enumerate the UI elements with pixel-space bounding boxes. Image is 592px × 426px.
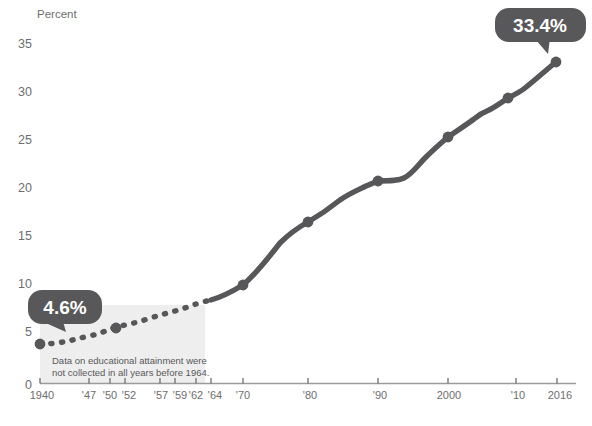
chart-container: Percent 35 30 25 20 15 10 5 0 bbox=[0, 0, 592, 426]
x-tick-label-2010: '10 bbox=[511, 389, 525, 401]
x-tick-label-1970: '70 bbox=[236, 389, 250, 401]
shaded-region-note-line-2: not collected in all years before 1964. bbox=[52, 367, 209, 378]
x-tick-label-1962: '62 bbox=[189, 389, 203, 401]
x-tick-label-1950: '50 bbox=[103, 389, 117, 401]
callout-end-value: 33.4% bbox=[495, 8, 586, 54]
x-tick-label-1940: 1940 bbox=[30, 389, 54, 401]
data-point-2016 bbox=[551, 57, 562, 68]
x-tick-label-1957: '57 bbox=[154, 389, 168, 401]
y-tick-5: 5 bbox=[25, 325, 32, 339]
x-tick-label-2000: 2000 bbox=[437, 389, 461, 401]
y-axis-title: Percent bbox=[37, 8, 77, 20]
shaded-region-note-line-1: Data on educational attainment were bbox=[52, 355, 207, 366]
y-axis-tick-labels: 35 30 25 20 15 10 5 0 bbox=[18, 37, 32, 392]
callout-end-label: 33.4% bbox=[513, 15, 567, 36]
x-tick-label-1947: '47 bbox=[82, 389, 96, 401]
y-tick-25: 25 bbox=[18, 133, 32, 147]
data-point-1952 bbox=[111, 323, 122, 334]
x-tick-label-1959: '59 bbox=[173, 389, 187, 401]
x-tick-label-1980: '80 bbox=[303, 389, 317, 401]
x-tick-label-1952: '52 bbox=[122, 389, 136, 401]
y-tick-35: 35 bbox=[18, 37, 32, 51]
shaded-region-note: Data on educational attainment were not … bbox=[52, 355, 209, 378]
y-tick-20: 20 bbox=[18, 181, 32, 195]
y-tick-15: 15 bbox=[18, 229, 32, 243]
data-point-2010 bbox=[503, 93, 514, 104]
data-point-1970 bbox=[238, 280, 249, 291]
data-point-1980 bbox=[303, 217, 314, 228]
data-point-1940 bbox=[35, 339, 46, 350]
x-tick-label-2016: 2016 bbox=[548, 389, 572, 401]
callout-start-label: 4.6% bbox=[43, 297, 86, 318]
x-axis-tick-labels: 1940 '47 '50 '52 '57 '59 '62 '64 '70 '80… bbox=[30, 389, 572, 401]
y-tick-10: 10 bbox=[18, 277, 32, 291]
x-tick-label-1964: '64 bbox=[208, 389, 222, 401]
educational-attainment-line-chart: Percent 35 30 25 20 15 10 5 0 bbox=[0, 0, 592, 426]
data-point-2000 bbox=[443, 132, 454, 143]
data-point-1990 bbox=[373, 176, 384, 187]
y-tick-30: 30 bbox=[18, 85, 32, 99]
x-tick-label-1990: '90 bbox=[373, 389, 387, 401]
